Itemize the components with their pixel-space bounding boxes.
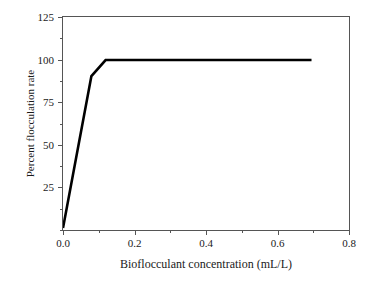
chart-figure: 2550751001250.00.20.40.60.8 Bioflocculan… bbox=[0, 0, 376, 282]
y-axis-tick bbox=[60, 209, 63, 210]
y-axis-tick bbox=[58, 60, 63, 61]
y-axis-tick bbox=[58, 17, 63, 18]
y-axis-tick-label: 75 bbox=[43, 97, 54, 108]
data-series-line bbox=[63, 17, 349, 230]
y-axis-tick-label: 125 bbox=[38, 12, 55, 23]
x-axis-tick-label: 0.2 bbox=[128, 238, 142, 249]
y-axis-tick-label: 50 bbox=[43, 139, 54, 150]
x-axis-tick bbox=[170, 230, 171, 233]
x-axis-tick-label: 0.8 bbox=[342, 238, 356, 249]
x-axis-tick bbox=[349, 230, 350, 235]
y-axis-tick-label: 25 bbox=[43, 182, 54, 193]
y-axis-tick-label: 100 bbox=[38, 54, 55, 65]
x-axis-tick-label: 0.6 bbox=[271, 238, 285, 249]
y-axis-tick bbox=[60, 124, 63, 125]
x-axis-tick bbox=[135, 230, 136, 235]
x-axis-tick-label: 0.4 bbox=[199, 238, 213, 249]
x-axis-tick bbox=[278, 230, 279, 235]
y-axis-tick bbox=[58, 102, 63, 103]
plot-area: 2550751001250.00.20.40.60.8 bbox=[62, 16, 350, 231]
x-axis-tick bbox=[206, 230, 207, 235]
y-axis-tick bbox=[58, 145, 63, 146]
x-axis-tick bbox=[63, 230, 64, 235]
y-axis-tick bbox=[58, 187, 63, 188]
x-axis-tick-label: 0.0 bbox=[56, 238, 70, 249]
y-axis-title: Percent flocculation rate bbox=[22, 16, 38, 231]
y-axis-tick bbox=[60, 38, 63, 39]
x-axis-title: Bioflocculant concentration (mL/L) bbox=[62, 258, 350, 270]
x-axis-tick bbox=[242, 230, 243, 233]
y-axis-tick bbox=[60, 81, 63, 82]
x-axis-tick bbox=[99, 230, 100, 233]
y-axis-tick bbox=[60, 166, 63, 167]
x-axis-tick bbox=[313, 230, 314, 233]
